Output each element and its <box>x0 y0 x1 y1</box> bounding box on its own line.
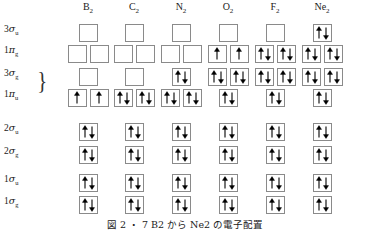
spin-up-arrow-icon <box>82 125 88 139</box>
orbital-box-1pi-g-o2-0 <box>208 45 227 63</box>
orbital-box-1pi-u-n2-1 <box>183 89 202 107</box>
column-header-c2: C2 <box>114 1 154 17</box>
spin-up-arrow-icon <box>175 198 181 212</box>
electron-arrows <box>231 46 248 62</box>
spin-up-arrow-icon <box>128 176 134 190</box>
orbital-label-1sigma-u: 1σu <box>4 173 19 188</box>
orbital-box-1sigma-u-f2-0 <box>266 174 285 192</box>
electron-arrows <box>314 197 331 213</box>
orbital-box-1sigma-u-o2-0 <box>219 174 238 192</box>
column-header-element-symbol: B <box>83 1 90 12</box>
spin-up-arrow-icon <box>316 91 322 105</box>
orbital-box-1pi-g-b2-0 <box>68 45 87 63</box>
orbital-box-3sigma-u-c2-0 <box>125 24 144 42</box>
electron-arrows <box>220 175 237 191</box>
spin-up-arrow-icon <box>316 148 322 162</box>
spin-up-arrow-icon <box>211 70 217 84</box>
electron-arrows <box>115 90 132 106</box>
spin-up-arrow-icon <box>175 148 181 162</box>
column-header-subscript: 2 <box>230 7 234 15</box>
spin-up-arrow-icon <box>258 70 264 84</box>
column-header-subscript: 2 <box>326 7 330 15</box>
orbital-box-2sigma-g-b2-0 <box>79 146 98 164</box>
spin-up-arrow-icon <box>117 91 123 105</box>
spin-up-arrow-icon <box>258 47 264 61</box>
electron-arrows <box>126 175 143 191</box>
electron-arrows <box>220 90 237 106</box>
orbital-box-1pi-g-f2-0 <box>255 45 274 63</box>
spin-up-arrow-icon <box>82 148 88 162</box>
electron-arrows <box>231 69 248 85</box>
electron-arrows <box>69 90 86 106</box>
orbital-box-3sigma-u-o2-0 <box>219 24 238 42</box>
electron-arrows <box>173 147 190 163</box>
orbital-box-1pi-u-b2-0 <box>68 89 87 107</box>
spin-up-arrow-icon <box>128 125 134 139</box>
orbital-box-3sigma-u-n2-0 <box>172 24 191 42</box>
spin-up-arrow-icon <box>280 70 286 84</box>
spin-down-arrow-icon <box>276 148 282 162</box>
orbital-box-1pi-g-c2-1 <box>136 45 155 63</box>
orbital-label-1pi-g: 1πg <box>4 44 18 59</box>
spin-up-arrow-icon <box>175 125 181 139</box>
spin-down-arrow-icon <box>334 70 340 84</box>
orbital-box-1pi-u-n2-0 <box>161 89 180 107</box>
orbital-parity-subscript: u <box>15 179 18 186</box>
orbital-parity-subscript: g <box>15 201 18 208</box>
orbital-box-1sigma-u-b2-0 <box>79 174 98 192</box>
spin-down-arrow-icon <box>218 70 224 84</box>
orbital-box-1pi-g-c2-0 <box>114 45 133 63</box>
electron-arrows <box>267 124 284 140</box>
electron-arrows <box>325 69 342 85</box>
spin-down-arrow-icon <box>323 91 329 105</box>
spin-down-arrow-icon <box>323 198 329 212</box>
spin-up-arrow-icon <box>222 198 228 212</box>
orbital-parity-subscript: g <box>15 50 18 57</box>
electron-arrows <box>303 69 320 85</box>
spin-up-arrow-icon <box>327 47 333 61</box>
spin-down-arrow-icon <box>135 198 141 212</box>
spin-up-arrow-icon <box>327 70 333 84</box>
electron-arrows <box>173 175 190 191</box>
electron-arrows <box>314 147 331 163</box>
orbital-label-1sigma-g: 1σg <box>4 195 19 210</box>
orbital-label-3sigma-u: 3σu <box>4 23 19 38</box>
spin-down-arrow-icon <box>171 91 177 105</box>
electron-arrows <box>267 197 284 213</box>
orbital-label-2sigma-g: 2σg <box>4 145 19 160</box>
column-header-o2: O2 <box>208 1 248 17</box>
spin-down-arrow-icon <box>135 176 141 190</box>
mo-electron-configuration-figure: B2C2N2O2F2Ne2 図 2 ・ 7 B2 から Ne2 の電子配置 3σ… <box>0 0 370 230</box>
spin-down-arrow-icon <box>182 176 188 190</box>
column-header-subscript: 2 <box>276 7 280 15</box>
spin-down-arrow-icon <box>89 125 95 139</box>
spin-up-arrow-icon <box>280 47 286 61</box>
electron-arrows <box>126 124 143 140</box>
orbital-box-3sigma-u-ne2-0 <box>313 24 332 42</box>
spin-down-arrow-icon <box>276 125 282 139</box>
orbital-box-1pi-u-o2-1 <box>230 68 249 86</box>
spin-down-arrow-icon <box>334 47 340 61</box>
spin-down-arrow-icon <box>229 148 235 162</box>
orbital-box-1pi-g-n2-0 <box>161 45 180 63</box>
orbital-box-2sigma-g-ne2-0 <box>313 146 332 164</box>
spin-down-arrow-icon <box>182 148 188 162</box>
orbital-box-1pi-g-ne2-0 <box>302 45 321 63</box>
spin-up-arrow-icon <box>222 148 228 162</box>
spin-down-arrow-icon <box>287 47 293 61</box>
spin-down-arrow-icon <box>312 47 318 61</box>
column-header-row: B2C2N2O2F2Ne2 <box>0 0 370 16</box>
spin-up-arrow-icon <box>74 91 80 105</box>
electron-arrows <box>80 124 97 140</box>
orbital-box-1pi-u-f2-0 <box>255 68 274 86</box>
spin-down-arrow-icon <box>229 91 235 105</box>
column-header-subscript: 2 <box>90 7 94 15</box>
spin-down-arrow-icon <box>124 91 130 105</box>
orbital-box-1sigma-g-b2-0 <box>79 196 98 214</box>
orbital-box-2sigma-g-c2-0 <box>125 146 144 164</box>
orbital-box-1pi-g-ne2-1 <box>324 45 343 63</box>
electron-arrows <box>267 175 284 191</box>
spin-down-arrow-icon <box>287 70 293 84</box>
orbital-parity-subscript: u <box>15 128 18 135</box>
electron-arrows <box>126 147 143 163</box>
